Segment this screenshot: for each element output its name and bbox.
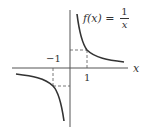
graph-canvas (0, 0, 152, 131)
function-fraction: 1 x (120, 7, 129, 30)
tick-label-neg-one: −1 (46, 54, 61, 64)
fraction-denominator: x (122, 20, 128, 30)
negative-branch-curve (16, 74, 64, 121)
function-label: f(x) = (83, 13, 115, 24)
reciprocal-function-graph: f(x) = 1 x x −1 1 (0, 0, 152, 131)
x-axis-label: x (133, 63, 139, 74)
fraction-numerator: 1 (121, 7, 127, 17)
tick-label-one: 1 (84, 73, 90, 83)
